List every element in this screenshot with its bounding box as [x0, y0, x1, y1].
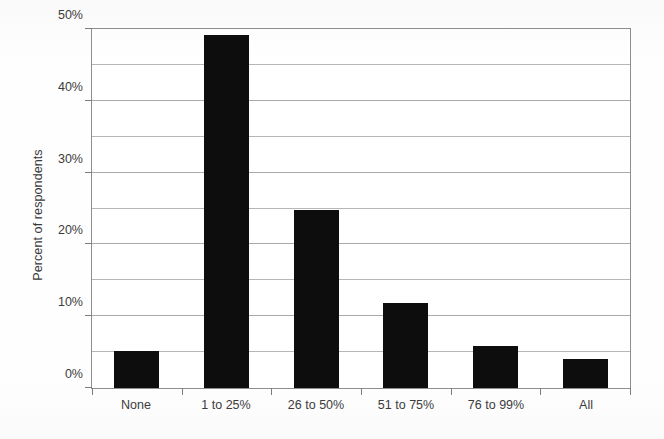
bars-group: [92, 29, 630, 388]
bar-slot: [361, 29, 451, 388]
y-tick-mark: [85, 28, 92, 29]
y-tick-mark: [85, 387, 92, 388]
x-tick-mark: [361, 388, 362, 395]
plot-area: 0%10%20%30%40%50%: [91, 28, 631, 389]
bar: [294, 210, 339, 388]
bar: [114, 351, 159, 388]
bar: [473, 346, 518, 388]
y-tick-label: 50%: [23, 8, 83, 22]
bar: [563, 359, 608, 388]
x-tick-label: None: [121, 398, 151, 412]
x-tick-mark: [271, 388, 272, 395]
x-tick-label: All: [579, 398, 593, 412]
y-tick-mark: [85, 243, 92, 244]
bar-chart-figure: Percent of respondents 0%10%20%30%40%50%…: [0, 0, 664, 439]
y-tick-label: 30%: [23, 152, 83, 166]
x-tick-mark: [92, 388, 93, 395]
x-tick-mark: [630, 388, 631, 395]
y-tick-label: 20%: [23, 223, 83, 237]
y-tick-mark: [85, 172, 92, 173]
x-tick-label: 26 to 50%: [288, 398, 344, 412]
bar-slot: [92, 29, 182, 388]
y-tick-mark: [85, 100, 92, 101]
y-tick-label: 0%: [23, 367, 83, 381]
x-tick-mark: [182, 388, 183, 395]
x-tick-mark: [451, 388, 452, 395]
bar: [204, 35, 249, 388]
bar: [383, 303, 428, 388]
bar-slot: [271, 29, 361, 388]
x-axis-labels: None1 to 25%26 to 50%51 to 75%76 to 99%A…: [91, 398, 631, 422]
y-tick-label: 40%: [23, 80, 83, 94]
y-tick-mark: [85, 315, 92, 316]
x-tick-label: 51 to 75%: [378, 398, 434, 412]
x-tick-mark: [540, 388, 541, 395]
bar-slot: [540, 29, 630, 388]
y-axis-title: Percent of respondents: [31, 105, 45, 325]
x-tick-label: 76 to 99%: [468, 398, 524, 412]
y-tick-label: 10%: [23, 295, 83, 309]
bar-slot: [182, 29, 272, 388]
bar-slot: [451, 29, 541, 388]
x-tick-label: 1 to 25%: [201, 398, 250, 412]
